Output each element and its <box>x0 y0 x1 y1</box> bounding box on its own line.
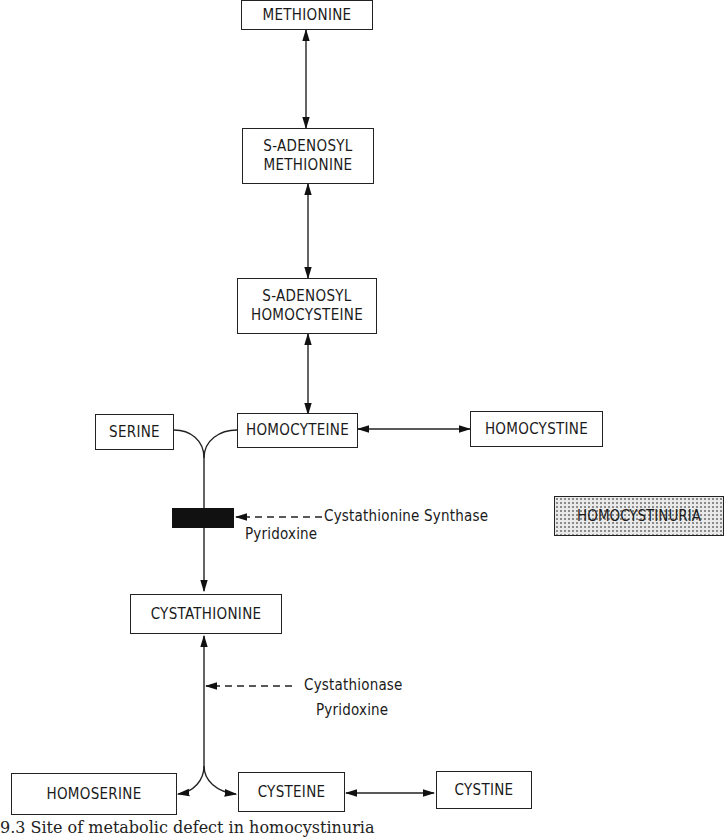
node-s-adenosyl-methionine: S-ADENOSYL METHIONINE <box>242 128 374 184</box>
node-homocyteine: HOMOCYTEINE <box>237 413 358 448</box>
node-homocystine: HOMOCYSTINE <box>470 411 603 447</box>
node-cystine: CYSTINE <box>436 771 532 809</box>
node-homoserine: HOMOSERINE <box>11 773 177 815</box>
node-cysteine: CYSTEINE <box>238 772 345 812</box>
node-methionine: METHIONINE <box>241 0 373 30</box>
disease-homocystinuria: HOMOCYSTINURIA <box>554 496 724 536</box>
enzyme-cystathionase: Cystathionase <box>304 676 403 694</box>
homocyteine-merge-curve <box>204 430 237 458</box>
cofactor-pyridoxine-synthase: Pyridoxine <box>245 525 317 543</box>
node-s-adenosyl-homocysteine: S-ADENOSYL HOMOCYSTEINE <box>237 278 377 334</box>
metabolic-block <box>172 508 234 528</box>
serine-merge-curve <box>174 430 204 458</box>
arrow-to-cysteine <box>204 766 236 794</box>
figure-caption: 9.3 Site of metabolic defect in homocyst… <box>0 818 375 837</box>
cofactor-pyridoxine-cystathionase: Pyridoxine <box>316 701 388 719</box>
node-cystathionine: CYSTATHIONINE <box>130 594 282 634</box>
node-serine: SERINE <box>95 414 174 450</box>
enzyme-cystathionine-synthase: Cystathionine Synthase <box>324 507 488 525</box>
arrow-to-homoserine <box>178 766 204 794</box>
